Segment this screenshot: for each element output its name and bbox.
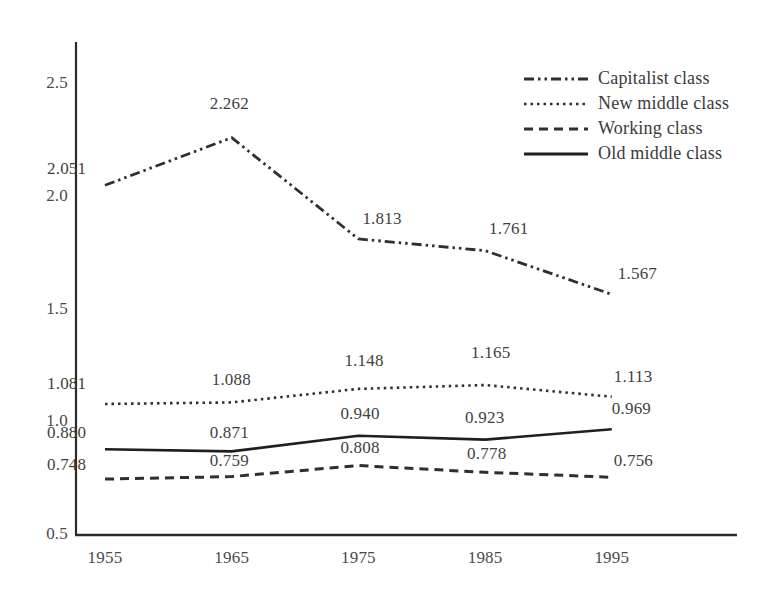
legend-item-old-middle-class[interactable]: Old middle class xyxy=(524,141,754,166)
legend-item-label: New middle class xyxy=(598,93,729,114)
x-axis-tick-1985: 1985 xyxy=(445,548,525,568)
data-label: 1.165 xyxy=(471,343,510,363)
legend-line-swatch-dotted xyxy=(524,97,588,111)
data-label: 0.756 xyxy=(614,451,653,471)
data-label: 1.813 xyxy=(362,209,401,229)
x-axis-tick-1955: 1955 xyxy=(65,548,145,568)
y-axis-tick-1-5: 1.5 xyxy=(20,299,68,319)
legend: Capitalist classNew middle classWorking … xyxy=(524,66,754,166)
data-label: 0.940 xyxy=(340,404,379,424)
data-label: 0.778 xyxy=(467,444,506,464)
data-label: 0.748 xyxy=(47,455,86,475)
legend-line-swatch-dash-dot xyxy=(524,72,588,86)
data-label: 1.148 xyxy=(344,351,383,371)
x-axis-tick-1995: 1995 xyxy=(572,548,652,568)
legend-item-label: Old middle class xyxy=(598,143,722,164)
data-label: 0.759 xyxy=(210,451,249,471)
legend-item-working-class[interactable]: Working class xyxy=(524,116,754,141)
data-label: 1.761 xyxy=(489,219,528,239)
series-lines xyxy=(105,138,612,479)
series-line-working-class xyxy=(105,466,612,480)
data-label: 0.923 xyxy=(465,408,504,428)
y-axis-tick-2-5: 2.5 xyxy=(20,73,68,93)
data-label: 1.081 xyxy=(47,374,86,394)
data-label: 1.113 xyxy=(614,367,653,387)
data-label: 2.051 xyxy=(47,159,86,179)
legend-item-new-middle-class[interactable]: New middle class xyxy=(524,91,754,116)
legend-line-swatch-dashed xyxy=(524,122,588,136)
data-label: 0.969 xyxy=(612,399,651,419)
line-chart: 2.52.01.51.00.5 19551965197519851995 2.0… xyxy=(0,0,767,595)
y-axis-tick-0-5: 0.5 xyxy=(20,524,68,544)
data-label: 1.567 xyxy=(618,264,657,284)
data-label: 0.808 xyxy=(340,438,379,458)
x-axis-tick-1975: 1975 xyxy=(318,548,398,568)
data-label: 0.880 xyxy=(47,423,86,443)
data-label: 1.088 xyxy=(212,370,251,390)
series-line-new-middle-class xyxy=(105,385,612,404)
legend-line-swatch-solid xyxy=(524,147,588,161)
data-label: 2.262 xyxy=(210,94,249,114)
legend-item-capitalist-class[interactable]: Capitalist class xyxy=(524,66,754,91)
legend-item-label: Working class xyxy=(598,118,703,139)
legend-item-label: Capitalist class xyxy=(598,68,710,89)
x-axis-tick-1965: 1965 xyxy=(192,548,272,568)
data-label: 0.871 xyxy=(210,423,249,443)
y-axis-tick-2-0: 2.0 xyxy=(20,186,68,206)
